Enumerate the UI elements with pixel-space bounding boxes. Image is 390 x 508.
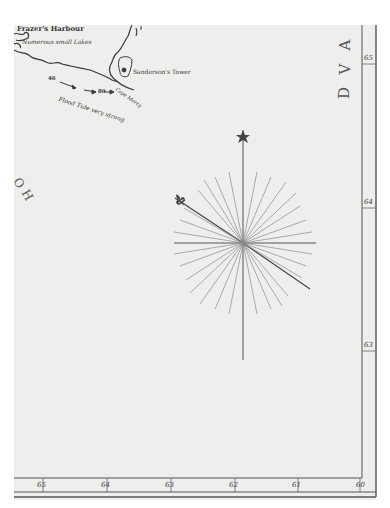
compass-rose — [174, 130, 316, 360]
label-frazers-harbour: Frazer's Harbour — [17, 24, 84, 33]
sea-name-letter: A — [336, 40, 354, 51]
sounding-value: 80 — [98, 88, 106, 94]
label-sandersons-tower: Sanderson's Tower — [133, 68, 191, 75]
longitude-label: 61 — [292, 481, 301, 489]
coastline — [14, 25, 134, 90]
fleur-de-lis-icon — [172, 192, 188, 209]
latitude-label: 63 — [364, 341, 373, 349]
sea-name-letter: D — [335, 87, 353, 99]
chart-graphics — [0, 0, 390, 508]
longitude-label: 63 — [165, 481, 174, 489]
latitude-ticks — [362, 64, 376, 351]
longitude-ticks — [43, 478, 360, 492]
longitude-label: 64 — [101, 481, 110, 489]
sounding-value: 46 — [48, 75, 56, 81]
chart-border — [14, 25, 376, 497]
label-small-lakes: Numerous small Lakes — [22, 38, 92, 45]
latitude-label: 65 — [364, 54, 373, 62]
sea-name-letter: V — [336, 64, 354, 75]
longitude-label: 65 — [37, 481, 46, 489]
latitude-label: 64 — [364, 198, 373, 206]
longitude-label: 60 — [356, 481, 365, 489]
longitude-label: 62 — [229, 481, 238, 489]
